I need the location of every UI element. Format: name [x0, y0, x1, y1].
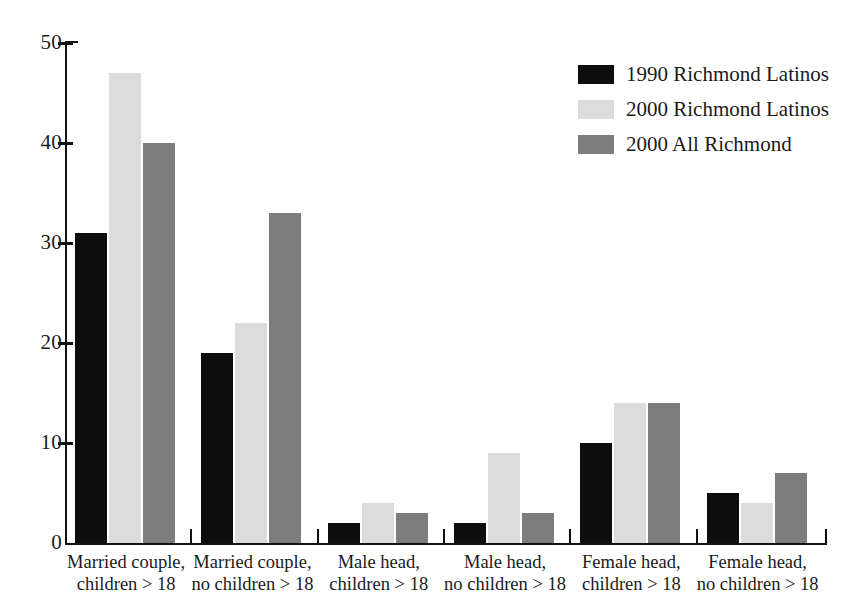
bar-g3-s1 — [328, 523, 360, 543]
bar-g4-s3 — [522, 513, 554, 543]
legend-label-1: 1990 Richmond Latinos — [626, 61, 829, 87]
legend-swatch-2 — [578, 100, 614, 119]
x-axis-label-line: Female head, — [683, 551, 833, 573]
bar-g3-s3 — [396, 513, 428, 543]
bar-g5-s3 — [648, 403, 680, 543]
legend-label-3: 2000 All Richmond — [626, 131, 792, 157]
bar-g6-s1 — [707, 493, 739, 543]
x-axis-line — [65, 543, 827, 545]
legend-label-2: 2000 Richmond Latinos — [626, 96, 829, 122]
bar-g1-s2 — [109, 73, 141, 543]
bar-g3-s2 — [362, 503, 394, 543]
bar-g1-s1 — [75, 233, 107, 543]
legend-item-3: 2000 All Richmond — [578, 132, 848, 167]
legend-swatch-3 — [578, 135, 614, 154]
x-axis-label-6: Female head,no children > 18 — [683, 551, 833, 595]
bar-g6-s3 — [775, 473, 807, 543]
bar-g6-s2 — [741, 503, 773, 543]
legend-item-1: 1990 Richmond Latinos — [578, 62, 848, 97]
bar-g4-s1 — [454, 523, 486, 543]
legend: 1990 Richmond Latinos2000 Richmond Latin… — [578, 62, 848, 167]
bar-g1-s3 — [143, 143, 175, 543]
bar-g4-s2 — [488, 453, 520, 543]
bar-g5-s2 — [614, 403, 646, 543]
bar-g2-s2 — [235, 323, 267, 543]
legend-item-2: 2000 Richmond Latinos — [578, 97, 848, 132]
bar-chart: 50403020100 Married couple,children > 18… — [0, 0, 859, 615]
bar-g2-s1 — [201, 353, 233, 543]
x-axis-label-line: no children > 18 — [683, 573, 833, 595]
bar-g5-s1 — [580, 443, 612, 543]
legend-swatch-1 — [578, 65, 614, 84]
bar-g2-s3 — [269, 213, 301, 543]
